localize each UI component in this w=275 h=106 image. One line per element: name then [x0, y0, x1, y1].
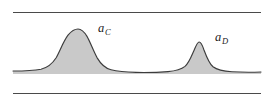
chromatogram-plot: [0, 0, 275, 106]
peak-label-ad: aD: [215, 31, 228, 45]
peak-label-ad-subscript: D: [221, 36, 228, 46]
figure-container: aC aD: [0, 0, 275, 106]
peak-label-ac-subscript: C: [104, 27, 110, 37]
peak-label-ac: aC: [98, 22, 111, 36]
